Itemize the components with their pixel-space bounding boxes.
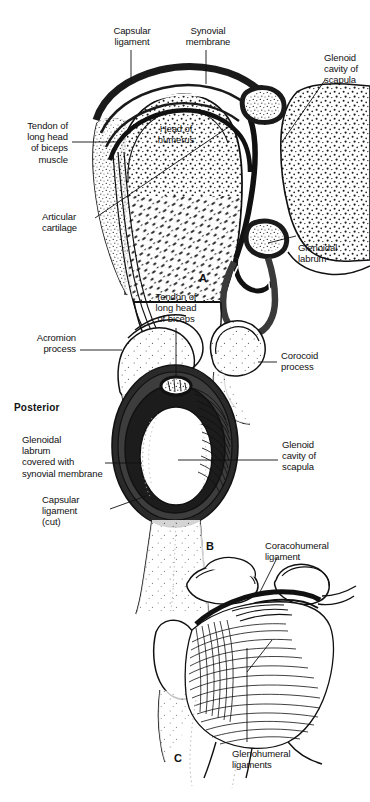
label-glenoidal-labrum-a: Glenoidal labrum	[298, 242, 362, 264]
greater-tuberosity-a	[93, 118, 127, 295]
label-articular-cartilage-a: Articular cartilage	[42, 211, 102, 233]
label-synovial-membrane-a: Synovial membrane	[172, 25, 244, 47]
glenoidal-labrum-inferior-a	[246, 221, 287, 257]
panel-letter-b: B	[206, 540, 214, 552]
panel-a-illustration	[72, 50, 370, 340]
label-coracohumeral-ligament-c: Coracohumeral ligament	[265, 540, 365, 562]
label-tendon-biceps-b: Tendon of long head of biceps	[143, 291, 209, 325]
label-tendon-biceps-a: Tendon of long head of biceps muscle	[2, 120, 68, 165]
label-glenoid-cavity-a: Glenoid cavity of scapula	[324, 52, 370, 86]
label-corocoid-process-b: Corocoid process	[281, 350, 343, 372]
glenoidal-labrum-superior-a	[242, 88, 284, 123]
label-capsular-ligament-a: Capsular ligament	[99, 25, 165, 47]
label-glenoid-cavity-b: Glenoid cavity of scapula	[282, 439, 338, 473]
label-head-of-humerus-a: Head of humerus	[144, 123, 208, 145]
panel-letter-a: A	[199, 272, 207, 284]
biceps-tendon-insertion-b	[161, 377, 191, 395]
label-acromion-process-b: Acromion process	[12, 332, 76, 354]
humeral-shaft-b	[136, 520, 209, 614]
scapula-body-a	[281, 84, 370, 261]
label-glenohumeral-ligaments-c: Glenohumeral ligaments	[232, 748, 330, 770]
panel-letter-c: C	[174, 752, 182, 764]
label-posterior-b: Posterior	[14, 402, 84, 413]
label-capsular-ligament-b: Capsular ligament (cut)	[42, 494, 104, 528]
label-glenoidal-labrum-b: Glenoidal labrum covered with synovial m…	[22, 434, 106, 479]
anatomy-figure: Capsular ligament Synovial membrane Glen…	[0, 0, 370, 802]
capsule-fibres-c	[185, 602, 333, 749]
